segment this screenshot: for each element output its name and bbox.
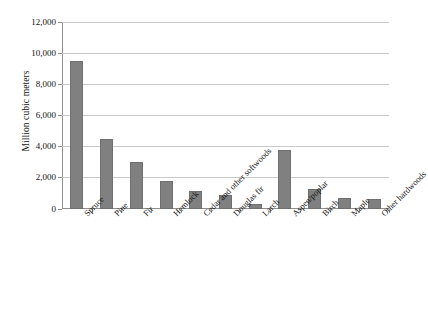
bars-group (62, 22, 389, 209)
bar (160, 181, 173, 208)
y-axis-tick-label: 8,000 (36, 80, 56, 89)
y-axis-tick-label: 12,000 (31, 18, 56, 27)
y-axis-tick-label: 2,000 (36, 173, 56, 182)
y-axis-tick-label: 6,000 (36, 111, 56, 120)
y-axis-tick-label: 4,000 (36, 142, 56, 151)
x-axis-labels-group: SprucePineFirHemlockCedar and other soft… (62, 211, 403, 313)
bar (278, 150, 291, 208)
y-axis-title: Million cubic meters (21, 41, 31, 181)
bar (70, 61, 83, 209)
plot-area: 02,0004,0006,0008,00010,00012,000 (62, 22, 389, 209)
bar (130, 162, 143, 209)
y-axis-tick-label: 0 (52, 204, 57, 213)
y-axis-tick-label: 10,000 (31, 49, 56, 58)
y-axis-tick (58, 209, 62, 210)
